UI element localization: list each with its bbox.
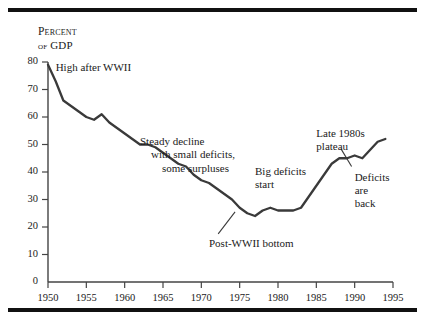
x-tick-label: 1970: [181, 292, 221, 303]
x-tick-label: 1965: [143, 292, 183, 303]
annotation-line: Big deficits: [255, 165, 306, 178]
y-tick-label: 40: [16, 165, 38, 176]
annotation-deficits-are-back: Deficitsareback: [355, 171, 390, 211]
x-tick-label: 1975: [220, 292, 260, 303]
x-tick-label: 1985: [296, 292, 336, 303]
x-tick-label: 1960: [105, 292, 145, 303]
leader-line-post-wwii-bottom: [218, 212, 235, 234]
x-tick-label: 1980: [258, 292, 298, 303]
x-tick-label: 1950: [28, 292, 68, 303]
annotation-line: plateau: [316, 140, 365, 153]
y-tick-label: 80: [16, 55, 38, 66]
y-axis-ticks: [42, 62, 48, 255]
annotation-line: Post-WWII bottom: [209, 237, 294, 250]
annotation-late-1980s-plateau: Late 1980splateau: [316, 127, 365, 154]
annotation-line: back: [355, 197, 390, 210]
annotation-post-wwii-bottom: Post-WWII bottom: [209, 237, 294, 250]
y-tick-label: 30: [16, 193, 38, 204]
figure-container: Percent of GDP 10203040506070800 1950195…: [0, 0, 425, 327]
annotation-line: Steady decline: [140, 135, 235, 148]
annotation-line: some surpluses: [140, 162, 235, 175]
y-tick-label: 70: [16, 83, 38, 94]
annotation-line: are: [355, 184, 390, 197]
x-axis-ticks: [48, 282, 393, 288]
annotation-line: Late 1980s: [316, 127, 365, 140]
y-tick-label: 60: [16, 110, 38, 121]
annotation-steady-decline: Steady declinewith small deficits,some s…: [140, 135, 235, 175]
annotation-high-after-wwii: High after WWII: [56, 61, 132, 74]
annotation-big-deficits-start: Big deficitsstart: [255, 165, 306, 192]
origin-label: 0: [16, 275, 38, 286]
y-tick-label: 20: [16, 220, 38, 231]
x-tick-label: 1995: [373, 292, 413, 303]
x-tick-label: 1990: [335, 292, 375, 303]
y-tick-label: 10: [16, 248, 38, 259]
annotation-line: start: [255, 178, 306, 191]
annotation-line: Deficits: [355, 171, 390, 184]
annotation-line: High after WWII: [56, 61, 132, 74]
x-tick-label: 1955: [66, 292, 106, 303]
y-tick-label: 50: [16, 138, 38, 149]
annotation-line: with small deficits,: [140, 148, 235, 161]
